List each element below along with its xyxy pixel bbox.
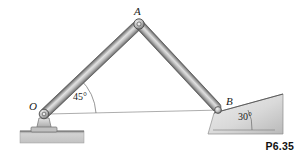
link-oa <box>39 20 143 119</box>
link-ab <box>134 19 223 114</box>
angle-label-45: 45° <box>73 92 87 102</box>
mechanism-diagram-svg <box>0 0 300 158</box>
pin-joint-a <box>134 19 144 29</box>
horizontal-reference-line <box>48 110 222 114</box>
figure-p635: O A B 45° 30° P6.35 <box>0 0 300 158</box>
figure-number-label: P6.35 <box>266 140 294 152</box>
pin-support-o <box>31 118 57 132</box>
label-point-o: O <box>29 101 37 112</box>
ground-support-block <box>20 131 84 143</box>
angle-label-30: 30° <box>238 112 252 122</box>
label-point-a: A <box>134 6 141 17</box>
roller-joint-b <box>215 107 222 114</box>
label-point-b: B <box>226 96 233 107</box>
pin-joint-o <box>39 109 49 119</box>
